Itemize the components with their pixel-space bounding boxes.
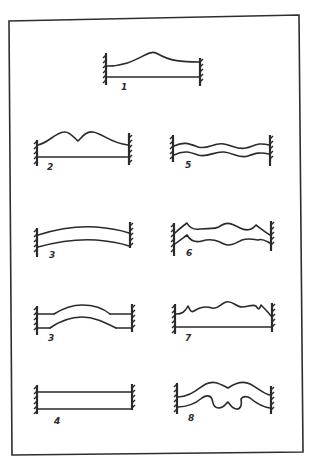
figure-2-label: 2 — [47, 162, 53, 172]
figure-3b: 3 — [34, 304, 135, 343]
diagram-canvas: 1 2 5 3 6 — [0, 0, 309, 459]
figure-7-label: 7 — [185, 333, 192, 343]
figure-8-label: 8 — [188, 413, 194, 423]
figure-1: 1 — [103, 52, 203, 92]
figure-3b-label: 3 — [48, 333, 54, 343]
figure-5: 5 — [170, 135, 273, 170]
figure-6-label: 6 — [186, 248, 192, 258]
figure-4: 4 — [34, 384, 135, 426]
figure-4-label: 4 — [53, 416, 60, 426]
figure-2: 2 — [34, 132, 132, 172]
figure-5-label: 5 — [185, 160, 191, 170]
figure-1-label: 1 — [121, 82, 127, 92]
figure-3a-label: 3 — [49, 250, 55, 260]
figure-3a: 3 — [34, 222, 133, 260]
figure-6: 6 — [171, 221, 274, 258]
figure-7: 7 — [172, 302, 275, 343]
figure-8: 8 — [174, 382, 274, 423]
